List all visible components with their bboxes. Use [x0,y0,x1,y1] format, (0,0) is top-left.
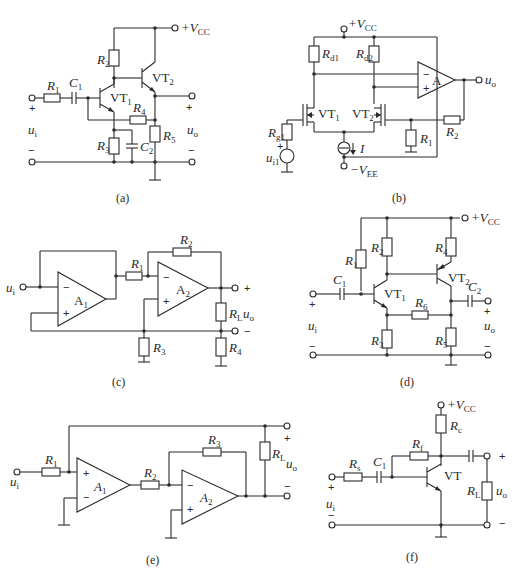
svg-text:−VEE: −VEE [350,162,378,179]
svg-text:R3: R3 [96,138,110,155]
svg-text:−: − [499,517,505,529]
svg-text:C1: C1 [333,272,346,289]
svg-text:R2: R2 [445,124,458,141]
svg-text:+: + [63,307,69,319]
circuit-diagrams: +VCC R2 VT2 + R1 C1 VT1 R4 R5 C2 [0,0,520,575]
svg-text:+VCC: +VCC [348,16,377,33]
svg-text:VT2: VT2 [448,270,470,287]
svg-text:R4: R4 [228,340,242,357]
svg-text:R6: R6 [414,295,428,312]
svg-text:A1: A1 [93,479,106,496]
svg-text:R2: R2 [179,232,192,249]
svg-text:R5: R5 [162,128,176,145]
svg-text:−: − [423,68,429,80]
svg-text:R1: R1 [344,253,357,270]
svg-text:+: + [244,282,250,294]
svg-text:uo: uo [286,456,298,473]
svg-text:−: − [244,325,250,337]
svg-text:−: − [284,480,290,492]
svg-text:RL: RL [466,483,480,500]
resistor-r3 [109,138,119,154]
svg-text:R1: R1 [130,256,143,273]
svg-text:Rd1: Rd1 [321,46,339,63]
svg-text:+: + [187,503,193,515]
svg-text:−: − [63,281,69,293]
svg-text:+: + [186,101,192,113]
svg-text:R4: R4 [132,100,146,117]
svg-text:C1: C1 [373,454,386,471]
caption-a: (a) [116,191,129,205]
svg-text:+: + [499,450,505,462]
svg-text:+: + [284,432,290,444]
svg-text:+: + [163,295,169,307]
svg-text:+: + [277,140,283,152]
svg-text:+VCC: +VCC [447,397,476,414]
circuit-a: +VCC R2 VT2 + R1 C1 VT1 R4 R5 C2 [28,20,210,205]
svg-text:+: + [328,481,334,493]
svg-text:−: − [309,340,315,352]
svg-text:−: − [28,144,34,156]
svg-text:(e): (e) [146,553,159,567]
resistor-r1 [44,94,60,102]
resistor-r2 [109,50,119,66]
resistor-r5 [150,126,160,142]
svg-text:R1: R1 [46,78,59,95]
svg-text:uo: uo [484,318,496,335]
svg-text:VT: VT [444,468,461,483]
svg-text:ui: ui [6,280,16,297]
svg-text:+: + [29,102,35,114]
svg-text:VT2: VT2 [352,106,374,123]
svg-text:(b): (b) [392,191,406,205]
circuit-b: +VCC Rd1 Rd2 − + A uo VT1 VT2 R2 R1 [266,16,497,205]
svg-text:uo: uo [496,483,508,500]
svg-text:ui: ui [326,496,336,513]
svg-text:R3: R3 [207,432,221,449]
svg-text:+: + [83,467,89,479]
circuit-d: +VCC R1 R2 R4 VT2 C2 + C1 + VT1 R6 R3 [308,210,500,389]
svg-text:−: − [83,491,89,503]
svg-text:uo: uo [187,122,199,139]
svg-text:−: − [484,340,490,352]
svg-text:VT1: VT1 [384,286,406,303]
input-terminal [29,95,35,101]
svg-text:ui: ui [28,122,38,139]
svg-text:+: + [484,305,490,317]
svg-text:C1: C1 [69,75,82,92]
svg-text:(d): (d) [400,375,414,389]
svg-text:R1: R1 [419,131,432,148]
svg-text:R3: R3 [152,340,166,357]
svg-text:Rf: Rf [411,436,423,453]
svg-text:RL: RL [271,446,285,463]
circuit-f: +VCC Rc + RL uo − Rf Rs C1 + VT − ui (f) [326,397,508,564]
circuit-c: ui − + A1 R1 R2 − + A2 + R3 RL uo − R4 (… [6,232,255,389]
svg-text:uo: uo [243,306,255,323]
svg-text:A2: A2 [199,490,212,507]
svg-text:C2: C2 [468,279,481,296]
resistor-r4 [130,116,146,124]
svg-text:A1: A1 [74,293,88,310]
svg-text:R2: R2 [370,240,383,257]
svg-text:−: − [187,479,193,491]
svg-text:+: + [423,82,429,94]
svg-text:A2: A2 [176,282,190,299]
svg-text:VT1: VT1 [110,90,132,107]
svg-text:−: − [163,271,169,283]
circuit-e: ui R1 + + − A1 R2 R3 − + A2 − RL uo (e) [10,423,298,567]
vt2-label: VT2 [152,70,174,87]
svg-text:ui: ui [10,474,20,491]
svg-text:ui: ui [308,318,318,335]
svg-text:Rs: Rs [348,456,361,473]
svg-text:uo: uo [485,72,497,89]
r2-label: R2 [96,52,109,69]
svg-text:R2: R2 [143,465,156,482]
svg-text:−: − [188,144,194,156]
svg-text:R1: R1 [44,452,57,469]
vcc-label: +VCC [181,20,210,37]
svg-text:Rc: Rc [449,418,462,435]
svg-text:+VCC: +VCC [471,210,500,227]
svg-text:RL: RL [228,306,242,323]
svg-text:ui1: ui1 [266,150,280,167]
svg-text:(c): (c) [112,375,125,389]
svg-text:+: + [309,298,315,310]
svg-text:A: A [432,73,442,88]
